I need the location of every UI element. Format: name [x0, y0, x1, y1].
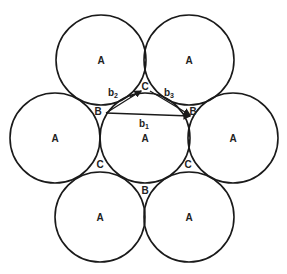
- site-label-a: A: [51, 133, 58, 144]
- site-label-a: A: [185, 55, 192, 66]
- vector-label-b1: b1: [139, 118, 149, 130]
- site-label-a: A: [229, 133, 236, 144]
- hexagonal-close-packing-diagram: AAAAAAACBBCCBb1b2b3: [0, 0, 287, 274]
- site-label-a: A: [185, 212, 192, 223]
- site-label-c: C: [141, 81, 148, 92]
- site-label-c: C: [96, 159, 103, 170]
- site-label-a: A: [97, 55, 104, 66]
- site-label-a: A: [141, 133, 148, 144]
- site-label-b: B: [94, 106, 101, 117]
- site-label-a: A: [96, 212, 103, 223]
- vector-b1: [106, 113, 190, 116]
- site-label-b: B: [189, 106, 196, 117]
- vector-label-b2: b2: [108, 87, 118, 99]
- site-label-c: C: [184, 159, 191, 170]
- site-label-b: B: [141, 185, 148, 196]
- vector-label-b3: b3: [164, 87, 174, 99]
- labels: AAAAAAACBBCCBb1b2b3: [51, 55, 236, 223]
- diagram-canvas: AAAAAAACBBCCBb1b2b3: [0, 0, 287, 274]
